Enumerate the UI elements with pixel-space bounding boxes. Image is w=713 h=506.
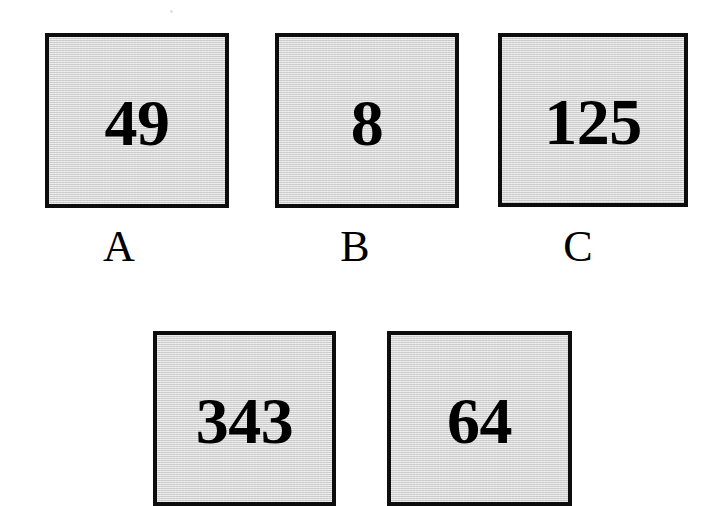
number-box-a[interactable]: 49 — [45, 33, 229, 208]
box-label-c: C — [538, 225, 618, 269]
box-label-b: B — [315, 225, 395, 269]
number-box-e[interactable]: 64 — [387, 331, 572, 506]
number-box-d-value: 343 — [196, 388, 294, 454]
number-box-b[interactable]: 8 — [275, 33, 459, 208]
box-label-a: A — [79, 225, 159, 269]
scan-speck-artifact — [170, 10, 173, 13]
number-box-a-value: 49 — [105, 90, 170, 156]
number-box-e-value: 64 — [447, 388, 512, 454]
number-box-c[interactable]: 125 — [498, 33, 688, 207]
number-box-c-value: 125 — [544, 89, 642, 155]
number-box-d[interactable]: 343 — [153, 331, 336, 506]
number-box-b-value: 8 — [351, 90, 384, 156]
